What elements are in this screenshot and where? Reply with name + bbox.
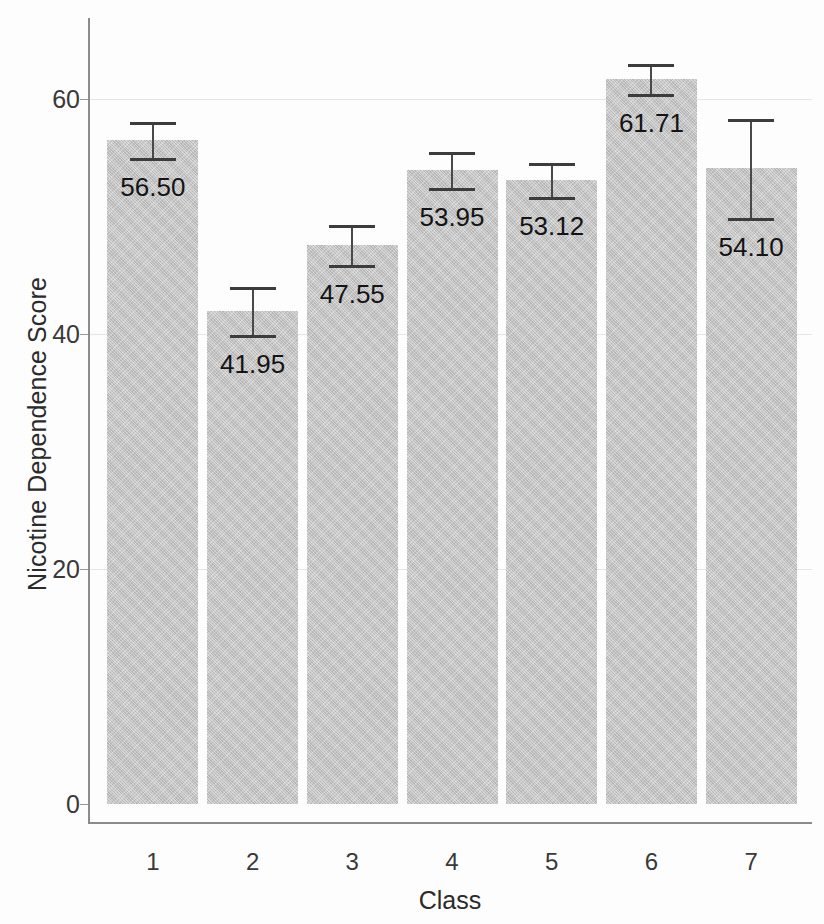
bar (706, 168, 797, 804)
bar (307, 245, 398, 804)
error-bar-cap-upper (628, 64, 674, 67)
bar-value-label: 53.12 (519, 211, 584, 242)
bar (407, 170, 498, 804)
error-bar-cap-lower (329, 265, 375, 268)
error-bar-stem (451, 152, 453, 188)
x-tick-label: 1 (146, 848, 159, 876)
error-bar-cap-upper (130, 122, 176, 125)
bar-chart: Nicotine Dependence Score 0204060 56.504… (0, 0, 824, 924)
error-bar-cap-upper (230, 287, 276, 290)
error-bar-stem (650, 64, 652, 95)
error-bar-cap-upper (329, 225, 375, 228)
bar-value-label: 56.50 (120, 172, 185, 203)
x-tick-label: 5 (545, 848, 558, 876)
bar-value-label: 41.95 (220, 349, 285, 380)
bar-value-label: 61.71 (619, 108, 684, 139)
bar (107, 140, 198, 804)
x-tick-label: 2 (246, 848, 259, 876)
x-tick-label: 3 (346, 848, 359, 876)
x-axis-title: Class (88, 886, 812, 915)
y-axis-line (88, 18, 90, 823)
error-bar-stem (551, 163, 553, 197)
y-tick-label: 40 (34, 320, 80, 349)
error-bar-cap-lower (429, 188, 475, 191)
x-tick-label: 4 (445, 848, 458, 876)
y-axis-ticks: 0204060 (0, 0, 80, 924)
y-tick-label: 60 (34, 85, 80, 114)
x-axis-line (88, 822, 812, 824)
x-tick-label: 7 (744, 848, 757, 876)
error-bar-cap-lower (529, 197, 575, 200)
error-bar-cap-upper (429, 152, 475, 155)
error-bar-stem (351, 225, 353, 265)
bar (506, 180, 597, 804)
bar (606, 79, 697, 804)
error-bar-cap-lower (130, 158, 176, 161)
y-tick-label: 20 (34, 555, 80, 584)
bar (207, 311, 298, 804)
bar-value-label: 47.55 (320, 279, 385, 310)
error-bar-cap-upper (728, 119, 774, 122)
error-bar-cap-lower (728, 218, 774, 221)
error-bar-stem (252, 287, 254, 335)
bar-value-label: 53.95 (419, 202, 484, 233)
error-bar-cap-upper (529, 163, 575, 166)
y-tick-label: 0 (34, 790, 80, 819)
error-bar-stem (152, 122, 154, 158)
error-bar-cap-lower (230, 335, 276, 338)
bar-value-label: 54.10 (719, 232, 784, 263)
error-bar-stem (750, 119, 752, 218)
x-tick-label: 6 (645, 848, 658, 876)
gridline (90, 99, 812, 100)
error-bar-cap-lower (628, 94, 674, 97)
